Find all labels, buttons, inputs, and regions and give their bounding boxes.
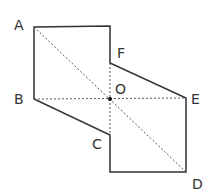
- label-C: C: [92, 136, 102, 152]
- center-point-O: [108, 97, 112, 101]
- label-B: B: [14, 91, 24, 107]
- label-O: O: [115, 81, 126, 97]
- label-A: A: [14, 17, 24, 33]
- label-E: E: [191, 91, 200, 107]
- label-D: D: [192, 176, 203, 192]
- label-F: F: [117, 45, 125, 61]
- geometry-figure: A F O B E C D: [0, 0, 216, 195]
